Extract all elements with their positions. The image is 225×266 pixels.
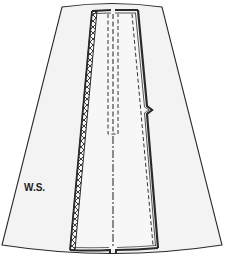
skirt-pattern-diagram: W.S. — [0, 0, 225, 266]
wrong-side-label: W.S. — [24, 182, 45, 193]
pleat-top-edge — [92, 10, 138, 11]
